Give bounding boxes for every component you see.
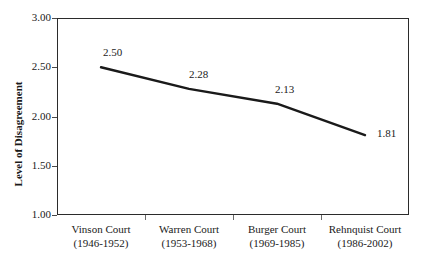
x-tick-mark: [145, 215, 146, 220]
y-tick-label: 2.00: [11, 111, 51, 122]
x-tick-mark: [233, 215, 234, 220]
y-tick-label: 1.50: [11, 160, 51, 171]
data-point-label: 2.28: [189, 69, 208, 80]
data-point-label: 2.50: [103, 47, 122, 58]
data-point-label: 2.13: [275, 84, 294, 95]
y-tick-label: 1.00: [11, 209, 51, 220]
y-tick-mark: [52, 215, 57, 216]
x-category-years: (1986-2002): [313, 236, 417, 250]
y-tick-label: 3.00: [11, 12, 51, 23]
y-axis-title: Level of Disagreement: [12, 54, 24, 214]
chart-figure: Level of Disagreement 3.00 2.50 2.00 1.5…: [0, 0, 421, 267]
x-category-label: Rehnquist Court (1986-2002): [313, 222, 417, 250]
y-tick-label: 2.50: [11, 61, 51, 72]
x-tick-mark: [321, 215, 322, 220]
data-point-label: 1.81: [377, 128, 396, 139]
x-category-name: Rehnquist Court: [313, 222, 417, 236]
